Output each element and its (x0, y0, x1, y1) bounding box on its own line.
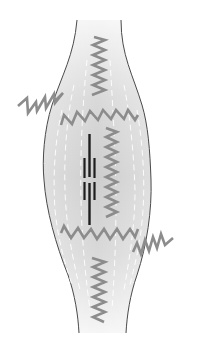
muscle-diagram (0, 0, 199, 353)
muscle-diagram-svg (0, 0, 199, 353)
